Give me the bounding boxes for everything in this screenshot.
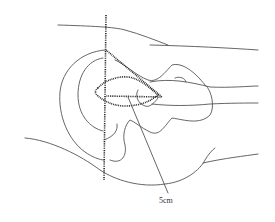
hip-diagram — [0, 0, 275, 222]
lower-skin-contour — [25, 138, 215, 185]
upper-thigh-contour — [150, 45, 258, 50]
acetabulum-inner-arc — [78, 58, 103, 131]
measurement-label: 5cm — [159, 196, 173, 205]
measurement-triangle — [106, 50, 162, 97]
vertical-reference-line — [104, 15, 106, 180]
measurement-leader-line — [128, 97, 168, 193]
acetabulum-inner-arc-2 — [104, 124, 117, 140]
femur-shaft-lower — [152, 103, 258, 106]
pelvis-outline — [60, 50, 105, 160]
lower-thigh-contour — [203, 154, 258, 163]
upper-skin-contour — [58, 25, 168, 45]
femoral-neck-contour — [110, 60, 212, 161]
